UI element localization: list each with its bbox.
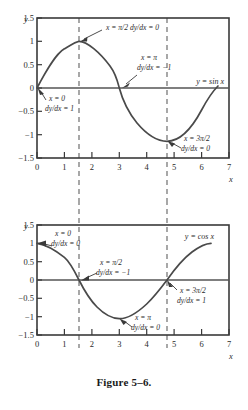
cosine-curve-label: y = cos x — [184, 232, 215, 241]
sine-xtick-label-6: 6 — [199, 162, 203, 172]
cosine-annotation-pi-over-2-line2: dy/dx = −1 — [96, 268, 130, 277]
cosine-annotation-zero-line1: x = 0 — [54, 229, 71, 238]
sine-ytick-label-4: 0 — [30, 83, 34, 93]
sine-ytick-label-7: −1.5 — [19, 153, 34, 163]
sine-annotation-pi-line1: x = π — [140, 53, 157, 62]
sine-annotation-pi-line2: dy/dx = −1 — [137, 63, 171, 72]
sine-annotation-3pi-over-2-line1: x = 3π/2 — [183, 134, 210, 143]
sine-xtick-label-7: 7 — [227, 162, 231, 172]
cosine-annotation-pi-over-2-line1: x = π/2 — [99, 258, 122, 267]
sine-annotation-zero: x = 0 dy/dx = 1 — [38, 88, 75, 114]
cosine-annotation-pi: x = π dy/dx = 0 — [120, 313, 161, 332]
sine-chart-svg: 1.5 1 0.5 0 −0.5 −1 −1.5 0 1 2 3 4 5 6 7… — [0, 0, 248, 200]
cosine-curve — [37, 243, 211, 318]
sine-xtick-label-3: 3 — [117, 162, 121, 172]
cosine-chart-svg: 1.5 1 0.5 0 −0.5 −1 −1.5 0 1 2 3 4 5 6 7… — [0, 200, 248, 375]
sine-annotation-3pi-over-2-line2: dy/dx = 0 — [181, 144, 210, 153]
cosine-annotation-zero-line2: dy/dx = 0 — [51, 239, 80, 248]
cosine-xtick-label-7: 7 — [227, 339, 231, 349]
sine-xtick-label-0: 0 — [35, 162, 39, 172]
cosine-annotation-pi-line1: x = π — [134, 313, 151, 322]
cosine-annotation-3pi-over-2-line2: dy/dx = 1 — [177, 296, 206, 305]
cosine-annotation-pi-line2: dy/dx = 0 — [131, 323, 160, 332]
sine-xtick-label-1: 1 — [62, 162, 66, 172]
cosine-chart: 1.5 1 0.5 0 −0.5 −1 −1.5 0 1 2 3 4 5 6 7… — [0, 200, 248, 375]
sine-ytick-label-2: 1 — [30, 36, 34, 46]
figure-5-6: 1.5 1 0.5 0 −0.5 −1 −1.5 0 1 2 3 4 5 6 7… — [0, 0, 248, 410]
cosine-ytick-label-4: 0 — [30, 275, 34, 285]
cosine-annotation-pi-over-2: x = π/2 dy/dx = −1 — [81, 258, 130, 281]
sine-annotation-zero-line1: x = 0 — [48, 94, 65, 103]
cosine-xtick-label-6: 6 — [199, 339, 203, 349]
cosine-annotation-3pi-over-2-line1: x = 3π/2 — [179, 286, 206, 295]
sine-xtick-label-5: 5 — [172, 162, 176, 172]
sine-xtick-label-4: 4 — [145, 162, 150, 172]
sine-annotation-zero-line2: dy/dx = 1 — [45, 104, 74, 113]
figure-caption: Figure 5–6. — [0, 376, 248, 388]
cosine-xtick-label-2: 2 — [90, 339, 94, 349]
sine-ytick-label-5: −0.5 — [19, 106, 34, 116]
sine-x-axis-label: x — [228, 174, 233, 184]
cosine-xtick-label-0: 0 — [35, 339, 39, 349]
cosine-ytick-label-5: −0.5 — [19, 293, 34, 303]
cosine-xtick-label-1: 1 — [62, 339, 66, 349]
sine-ytick-label-3: 0.5 — [23, 60, 34, 70]
sine-annotation-pi: x = π dy/dx = −1 — [122, 53, 171, 88]
cosine-annotation-3pi-over-2: x = 3π/2 dy/dx = 1 — [167, 280, 206, 306]
sine-ytick-label-6: −1 — [25, 130, 34, 140]
cosine-ytick-label-7: −1.5 — [19, 330, 34, 340]
sine-annotation-3pi-over-2: x = 3π/2 dy/dx = 0 — [168, 134, 211, 153]
cosine-annotation-zero: x = 0 dy/dx = 0 — [38, 229, 81, 248]
sine-curve — [37, 41, 218, 141]
sine-xtick-label-2: 2 — [90, 162, 94, 172]
cosine-ytick-label-2: 1 — [30, 238, 34, 248]
cosine-ytick-label-3: 0.5 — [23, 257, 34, 267]
cosine-ytick-label-6: −1 — [25, 312, 34, 322]
sine-y-axis-label: y — [23, 14, 28, 24]
sine-curve-label: y = sin x — [195, 77, 224, 86]
cosine-xtick-label-5: 5 — [172, 339, 176, 349]
cosine-xtick-label-3: 3 — [117, 339, 121, 349]
sine-annotation-pi-over-2-text: x = π/2 dy/dx = 0 — [105, 23, 159, 32]
sine-annotation-pi-over-2: x = π/2 dy/dx = 0 — [80, 23, 159, 42]
sine-chart: 1.5 1 0.5 0 −0.5 −1 −1.5 0 1 2 3 4 5 6 7… — [0, 0, 248, 200]
cosine-x-axis-label: x — [228, 351, 233, 361]
cosine-xtick-label-4: 4 — [145, 339, 150, 349]
cosine-y-axis-label: y — [23, 221, 28, 231]
